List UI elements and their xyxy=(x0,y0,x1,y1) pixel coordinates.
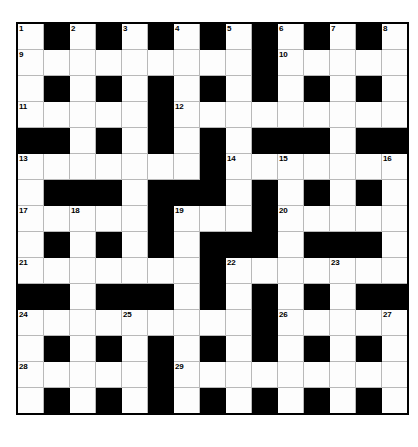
numbered-cell[interactable]: 21 xyxy=(17,258,44,284)
letter-cell[interactable] xyxy=(330,128,356,154)
numbered-cell[interactable]: 22 xyxy=(226,258,252,284)
letter-cell[interactable] xyxy=(278,232,304,258)
crossword-grid[interactable]: 1234567891011121314151617181920212223242… xyxy=(16,22,409,415)
letter-cell[interactable] xyxy=(252,102,278,128)
letter-cell[interactable] xyxy=(226,206,252,232)
letter-cell[interactable] xyxy=(200,50,226,76)
numbered-cell[interactable]: 2 xyxy=(70,23,96,50)
letter-cell[interactable] xyxy=(122,388,148,415)
letter-cell[interactable] xyxy=(122,362,148,388)
letter-cell[interactable] xyxy=(44,102,70,128)
letter-cell[interactable] xyxy=(278,180,304,206)
letter-cell[interactable] xyxy=(200,362,226,388)
letter-cell[interactable] xyxy=(70,258,96,284)
numbered-cell[interactable]: 19 xyxy=(174,206,200,232)
letter-cell[interactable] xyxy=(252,258,278,284)
letter-cell[interactable] xyxy=(278,362,304,388)
letter-cell[interactable] xyxy=(96,362,122,388)
letter-cell[interactable] xyxy=(382,336,409,362)
letter-cell[interactable] xyxy=(304,362,330,388)
numbered-cell[interactable]: 8 xyxy=(382,23,409,50)
letter-cell[interactable] xyxy=(44,50,70,76)
letter-cell[interactable] xyxy=(330,206,356,232)
numbered-cell[interactable]: 11 xyxy=(17,102,44,128)
letter-cell[interactable] xyxy=(226,76,252,102)
letter-cell[interactable] xyxy=(148,50,174,76)
numbered-cell[interactable]: 14 xyxy=(226,154,252,180)
letter-cell[interactable] xyxy=(70,336,96,362)
numbered-cell[interactable]: 26 xyxy=(278,310,304,336)
letter-cell[interactable] xyxy=(226,336,252,362)
letter-cell[interactable] xyxy=(174,128,200,154)
letter-cell[interactable] xyxy=(382,50,409,76)
letter-cell[interactable] xyxy=(278,284,304,310)
letter-cell[interactable] xyxy=(356,258,382,284)
letter-cell[interactable] xyxy=(330,154,356,180)
letter-cell[interactable] xyxy=(356,206,382,232)
numbered-cell[interactable]: 12 xyxy=(174,102,200,128)
letter-cell[interactable] xyxy=(356,310,382,336)
letter-cell[interactable] xyxy=(44,310,70,336)
letter-cell[interactable] xyxy=(382,102,409,128)
letter-cell[interactable] xyxy=(174,50,200,76)
letter-cell[interactable] xyxy=(226,284,252,310)
letter-cell[interactable] xyxy=(122,154,148,180)
letter-cell[interactable] xyxy=(278,388,304,415)
letter-cell[interactable] xyxy=(278,102,304,128)
letter-cell[interactable] xyxy=(356,362,382,388)
letter-cell[interactable] xyxy=(70,76,96,102)
letter-cell[interactable] xyxy=(226,180,252,206)
letter-cell[interactable] xyxy=(382,76,409,102)
numbered-cell[interactable]: 29 xyxy=(174,362,200,388)
letter-cell[interactable] xyxy=(96,154,122,180)
letter-cell[interactable] xyxy=(96,206,122,232)
letter-cell[interactable] xyxy=(17,336,44,362)
letter-cell[interactable] xyxy=(330,362,356,388)
letter-cell[interactable] xyxy=(382,388,409,415)
numbered-cell[interactable]: 18 xyxy=(70,206,96,232)
numbered-cell[interactable]: 20 xyxy=(278,206,304,232)
letter-cell[interactable] xyxy=(200,310,226,336)
letter-cell[interactable] xyxy=(122,258,148,284)
letter-cell[interactable] xyxy=(382,258,409,284)
letter-cell[interactable] xyxy=(356,50,382,76)
letter-cell[interactable] xyxy=(174,154,200,180)
letter-cell[interactable] xyxy=(226,310,252,336)
letter-cell[interactable] xyxy=(304,258,330,284)
letter-cell[interactable] xyxy=(252,362,278,388)
letter-cell[interactable] xyxy=(148,154,174,180)
letter-cell[interactable] xyxy=(278,258,304,284)
letter-cell[interactable] xyxy=(226,102,252,128)
letter-cell[interactable] xyxy=(330,284,356,310)
letter-cell[interactable] xyxy=(122,76,148,102)
numbered-cell[interactable]: 9 xyxy=(17,50,44,76)
letter-cell[interactable] xyxy=(44,154,70,180)
letter-cell[interactable] xyxy=(304,206,330,232)
numbered-cell[interactable]: 25 xyxy=(122,310,148,336)
numbered-cell[interactable]: 17 xyxy=(17,206,44,232)
letter-cell[interactable] xyxy=(122,336,148,362)
letter-cell[interactable] xyxy=(122,102,148,128)
letter-cell[interactable] xyxy=(382,232,409,258)
letter-cell[interactable] xyxy=(174,388,200,415)
numbered-cell[interactable]: 28 xyxy=(17,362,44,388)
numbered-cell[interactable]: 24 xyxy=(17,310,44,336)
letter-cell[interactable] xyxy=(96,310,122,336)
numbered-cell[interactable]: 16 xyxy=(382,154,409,180)
letter-cell[interactable] xyxy=(70,102,96,128)
letter-cell[interactable] xyxy=(96,50,122,76)
letter-cell[interactable] xyxy=(174,284,200,310)
letter-cell[interactable] xyxy=(17,180,44,206)
letter-cell[interactable] xyxy=(226,362,252,388)
letter-cell[interactable] xyxy=(200,206,226,232)
letter-cell[interactable] xyxy=(252,154,278,180)
numbered-cell[interactable]: 1 xyxy=(17,23,44,50)
letter-cell[interactable] xyxy=(174,258,200,284)
letter-cell[interactable] xyxy=(174,336,200,362)
letter-cell[interactable] xyxy=(226,128,252,154)
numbered-cell[interactable]: 10 xyxy=(278,50,304,76)
letter-cell[interactable] xyxy=(356,154,382,180)
letter-cell[interactable] xyxy=(17,388,44,415)
letter-cell[interactable] xyxy=(330,388,356,415)
numbered-cell[interactable]: 5 xyxy=(226,23,252,50)
